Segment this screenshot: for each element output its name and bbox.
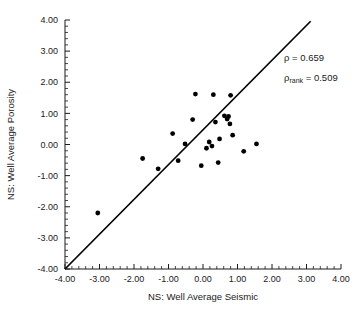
data-point bbox=[183, 141, 188, 146]
y-tick-label: -3.00 bbox=[37, 233, 58, 243]
data-point bbox=[211, 92, 216, 97]
x-tick-label: -2.00 bbox=[124, 274, 145, 284]
y-tick-label: -1.00 bbox=[37, 171, 58, 181]
data-point bbox=[207, 140, 212, 145]
rank-correlation-annotation: ρrank = 0.509 bbox=[284, 72, 338, 84]
correlation-annotation: ρ = 0.659 bbox=[284, 52, 324, 63]
data-points bbox=[95, 92, 259, 216]
regression-line bbox=[65, 21, 311, 269]
data-point bbox=[228, 122, 233, 127]
x-tick-label: 2.00 bbox=[263, 274, 281, 284]
data-point bbox=[210, 144, 215, 149]
data-point bbox=[230, 133, 235, 138]
y-tick-label: 1.00 bbox=[40, 109, 58, 119]
data-point bbox=[254, 141, 259, 146]
y-axis-tick-labels: 4.003.002.001.000.00-1.00-2.00-3.00-4.00 bbox=[37, 15, 58, 274]
x-tick-label: -1.00 bbox=[158, 274, 179, 284]
data-point bbox=[170, 131, 175, 136]
y-tick-label: 0.00 bbox=[40, 140, 58, 150]
data-point bbox=[226, 114, 231, 119]
data-point bbox=[217, 136, 222, 141]
data-point bbox=[213, 120, 218, 125]
x-tick-label: 0.00 bbox=[194, 274, 212, 284]
y-tick-label: 3.00 bbox=[40, 46, 58, 56]
x-tick-label: -3.00 bbox=[89, 274, 110, 284]
scatter-plot-figure: 4.003.002.001.000.00-1.00-2.00-3.00-4.00… bbox=[0, 0, 360, 318]
y-tick-label: 4.00 bbox=[40, 15, 58, 25]
y-axis-title: NS: Well Average Porosity bbox=[5, 89, 16, 200]
data-point bbox=[176, 158, 181, 163]
x-axis-ticks bbox=[65, 264, 341, 269]
x-tick-label: 4.00 bbox=[332, 274, 350, 284]
y-axis-ticks bbox=[65, 20, 70, 269]
data-point bbox=[95, 211, 100, 216]
data-point bbox=[241, 149, 246, 154]
x-tick-label: 3.00 bbox=[298, 274, 316, 284]
x-axis-title: NS: Well Average Seismic bbox=[148, 291, 258, 302]
data-point bbox=[190, 117, 195, 122]
data-point bbox=[199, 163, 204, 168]
data-point bbox=[193, 92, 198, 97]
y-tick-label: 2.00 bbox=[40, 77, 58, 87]
data-point bbox=[204, 146, 209, 151]
data-point bbox=[216, 160, 221, 165]
plot-canvas: 4.003.002.001.000.00-1.00-2.00-3.00-4.00… bbox=[0, 0, 360, 318]
data-point bbox=[228, 93, 233, 98]
y-tick-label: -4.00 bbox=[37, 264, 58, 274]
x-axis-tick-labels: -4.00-3.00-2.00-1.000.001.002.003.004.00 bbox=[55, 274, 350, 284]
x-tick-label: 1.00 bbox=[229, 274, 247, 284]
x-tick-label: -4.00 bbox=[55, 274, 76, 284]
data-point bbox=[156, 166, 161, 171]
data-point bbox=[140, 156, 145, 161]
y-tick-label: -2.00 bbox=[37, 202, 58, 212]
